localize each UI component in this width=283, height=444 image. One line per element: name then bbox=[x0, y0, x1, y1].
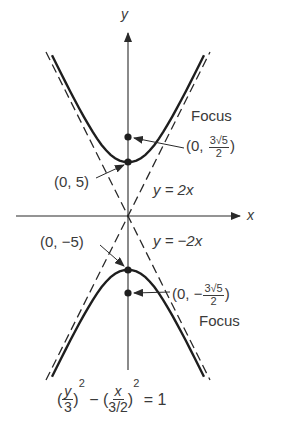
focus-upper-den: 2 bbox=[216, 148, 222, 160]
focus-upper-num: 3√5 bbox=[209, 135, 229, 148]
eq-exponent-2: 2 bbox=[133, 377, 139, 389]
focus-lower-fraction: 3√52 bbox=[203, 283, 223, 307]
focus-upper-suffix: ) bbox=[230, 137, 235, 154]
asymptote-y-2x-label: y = 2x bbox=[153, 182, 193, 197]
x-axis-label: x bbox=[247, 208, 254, 222]
focus-upper-prefix: (0, bbox=[186, 137, 208, 154]
vertex-lower-label: (0, −5) bbox=[40, 234, 84, 249]
eq-num-1: y bbox=[62, 384, 73, 400]
vertex-upper-point bbox=[124, 158, 131, 165]
asymptote-y-neg2x-label: y = −2x bbox=[153, 233, 202, 248]
focus-lower-den: 2 bbox=[211, 296, 217, 308]
focus-lower-point bbox=[124, 289, 131, 296]
hyperbola-equation: (y3)2 − (x3/2)2 = 1 bbox=[57, 384, 166, 416]
eq-minus: − bbox=[89, 391, 98, 408]
focus-upper-caption: Focus bbox=[191, 108, 232, 123]
eq-exponent-1: 2 bbox=[79, 377, 85, 389]
eq-den-2: 3/2 bbox=[108, 400, 127, 415]
eq-rparen-1: ) bbox=[73, 391, 78, 408]
eq-fraction-1: y3 bbox=[62, 384, 73, 416]
eq-rparen-2: ) bbox=[128, 391, 133, 408]
focus-lower-num: 3√5 bbox=[203, 283, 223, 296]
vertex-upper-leader bbox=[96, 165, 124, 178]
eq-den-1: 3 bbox=[64, 400, 72, 415]
vertex-upper-label: (0, 5) bbox=[54, 174, 89, 189]
vertex-lower-point bbox=[124, 266, 131, 273]
hyperbola-diagram bbox=[0, 0, 283, 444]
y-axis-label: y bbox=[121, 7, 128, 21]
focus-lower-prefix: (0, − bbox=[172, 285, 202, 302]
focus-lower-caption: Focus bbox=[199, 313, 240, 328]
focus-lower-suffix: ) bbox=[225, 285, 230, 302]
focus-lower-coordinates: (0, −3√52) bbox=[172, 283, 230, 307]
eq-equals-one: = 1 bbox=[144, 391, 167, 408]
eq-fraction-2: x3/2 bbox=[108, 384, 127, 416]
eq-num-2: x bbox=[113, 384, 124, 400]
focus-upper-coordinates: (0, 3√52) bbox=[186, 135, 235, 159]
focus-upper-point bbox=[124, 133, 131, 140]
focus-upper-fraction: 3√52 bbox=[209, 135, 229, 159]
focus-lower-leader bbox=[134, 292, 170, 293]
